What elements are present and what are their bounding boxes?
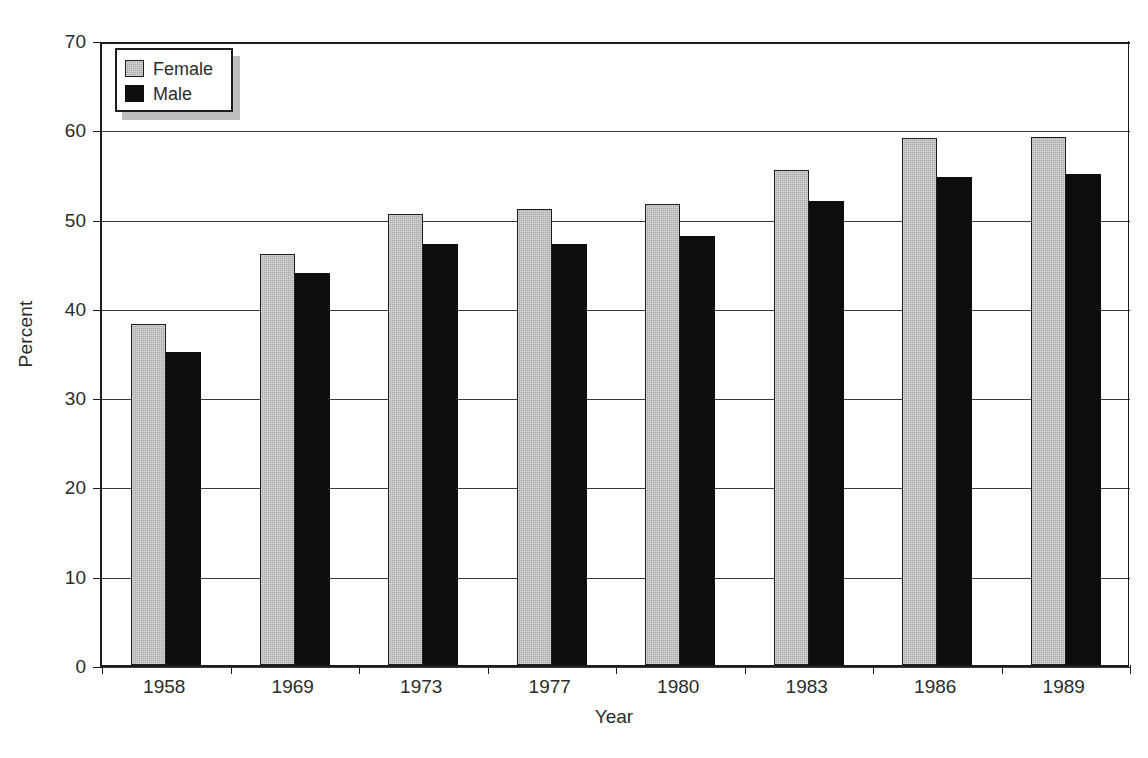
x-tick-mark-1977 xyxy=(488,665,489,674)
bar-female-1969 xyxy=(260,254,295,665)
x-tick-label-1989: 1989 xyxy=(994,676,1134,698)
gridline-50 xyxy=(102,221,1130,222)
x-tick-mark-1983 xyxy=(745,665,746,674)
bar-female-1983 xyxy=(774,170,809,665)
bar-male-1958 xyxy=(166,352,201,665)
legend-item-male: Male xyxy=(125,81,231,106)
y-tick-label-60: 60 xyxy=(34,120,86,142)
x-axis-title: Year xyxy=(100,706,1128,728)
y-tick-mark-30 xyxy=(93,399,102,400)
y-tick-mark-60 xyxy=(93,131,102,132)
gridline-10 xyxy=(102,578,1130,579)
bar-group-1980 xyxy=(645,40,715,665)
y-tick-label-70: 70 xyxy=(34,31,86,53)
bar-male-1969 xyxy=(295,273,330,665)
x-tick-mark-1973 xyxy=(359,665,360,674)
legend-label-female: Female xyxy=(153,60,213,78)
bar-female-1986 xyxy=(902,138,937,665)
x-tick-label-1980: 1980 xyxy=(608,676,748,698)
x-tick-label-1969: 1969 xyxy=(223,676,363,698)
bar-group-1977 xyxy=(517,40,587,665)
legend-item-female: Female xyxy=(125,56,231,81)
bar-group-1986 xyxy=(902,40,972,665)
bar-male-1977 xyxy=(552,244,587,665)
bar-chart-figure: Percent 010203040506070 1958196919731977… xyxy=(0,0,1148,758)
x-tick-mark-1969 xyxy=(231,665,232,674)
legend-label-male: Male xyxy=(153,85,192,103)
gridline-20 xyxy=(102,488,1130,489)
gridline-40 xyxy=(102,310,1130,311)
bar-female-1989 xyxy=(1031,137,1066,665)
x-tick-label-1986: 1986 xyxy=(865,676,1005,698)
bar-group-1983 xyxy=(774,40,844,665)
y-tick-mark-0 xyxy=(93,667,102,668)
bar-group-1973 xyxy=(388,40,458,665)
y-tick-mark-20 xyxy=(93,488,102,489)
gridline-60 xyxy=(102,131,1130,132)
x-tick-mark-1989 xyxy=(1002,665,1003,674)
bar-group-1958 xyxy=(131,40,201,665)
x-tick-mark-1980 xyxy=(616,665,617,674)
bar-female-1977 xyxy=(517,209,552,665)
bar-male-1980 xyxy=(680,236,715,665)
x-tick-label-1977: 1977 xyxy=(480,676,620,698)
bar-female-1980 xyxy=(645,204,680,665)
bar-group-1989 xyxy=(1031,40,1101,665)
gridline-70 xyxy=(102,42,1130,44)
chart-legend: Female Male xyxy=(115,48,233,112)
y-tick-label-0: 0 xyxy=(34,656,86,678)
bar-male-1986 xyxy=(937,177,972,665)
x-tick-mark-end xyxy=(1130,665,1131,674)
bar-male-1983 xyxy=(809,201,844,665)
x-tick-mark-1958 xyxy=(102,665,103,674)
legend-swatch-male-icon xyxy=(125,85,144,102)
legend-swatch-female-icon xyxy=(125,60,144,77)
y-tick-mark-40 xyxy=(93,310,102,311)
x-tick-label-1983: 1983 xyxy=(737,676,877,698)
bar-group-1969 xyxy=(260,40,330,665)
x-tick-label-1958: 1958 xyxy=(94,676,234,698)
bar-male-1973 xyxy=(423,244,458,665)
y-tick-label-20: 20 xyxy=(34,477,86,499)
bar-female-1958 xyxy=(131,324,166,665)
y-tick-mark-70 xyxy=(93,42,102,43)
gridline-30 xyxy=(102,399,1130,400)
x-tick-mark-1986 xyxy=(873,665,874,674)
y-tick-label-40: 40 xyxy=(34,299,86,321)
y-tick-mark-50 xyxy=(93,221,102,222)
x-tick-label-1973: 1973 xyxy=(351,676,491,698)
y-tick-mark-10 xyxy=(93,578,102,579)
y-tick-label-10: 10 xyxy=(34,567,86,589)
plot-area xyxy=(100,42,1128,667)
y-tick-label-30: 30 xyxy=(34,388,86,410)
y-tick-label-50: 50 xyxy=(34,210,86,232)
bar-female-1973 xyxy=(388,214,423,665)
bar-male-1989 xyxy=(1066,174,1101,665)
